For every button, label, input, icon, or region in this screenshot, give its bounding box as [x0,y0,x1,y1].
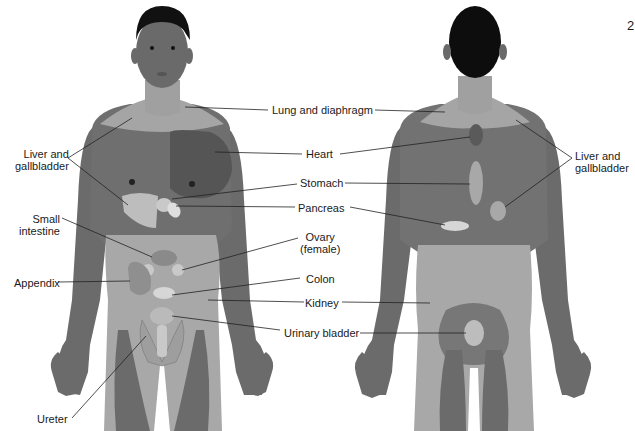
label-pancreas: Pancreas [298,202,344,214]
front-right-ear [185,48,193,64]
label-kidney: Kidney [305,297,339,309]
back-head [449,6,501,78]
label-appendix: Appendix [14,277,60,289]
back-figure [355,6,591,431]
back-right-ear [499,44,507,60]
back-stomach-zone [469,161,483,205]
front-small-intestine-zone [151,250,177,266]
front-bladder-zone [150,307,174,325]
label-lung-diaphragm: Lung and diaphragm [272,104,373,116]
label-liver-gallbladder-back: Liver and gallbladder [575,150,629,174]
label-ureter: Ureter [37,413,68,425]
label-ovary: Ovary (female) [300,231,340,255]
back-neck [458,76,492,114]
label-heart: Heart [306,148,333,160]
back-left-ear [443,44,451,60]
referred-pain-diagram [0,0,635,431]
back-bladder-zone [464,320,484,346]
back-liver-zone [490,201,506,221]
front-figure [51,6,273,431]
figure-number-mark: 2 [627,18,634,33]
label-small-intestine: Small intestine [19,213,60,237]
label-liver-gallbladder-front: Liver and gallbladder [15,148,69,172]
label-urinary-bladder: Urinary bladder [284,327,359,339]
label-stomach: Stomach [300,177,343,189]
back-pancreas-zone [441,221,469,231]
front-left-ear [131,48,139,64]
back-heart-zone [469,124,483,146]
label-colon: Colon [306,273,335,285]
front-colon-zone [153,287,175,299]
